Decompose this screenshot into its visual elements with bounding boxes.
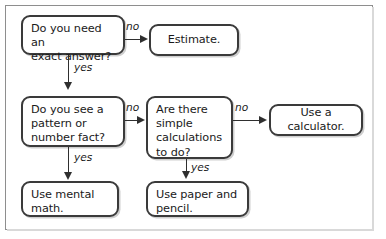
edge-pattern-fact-yes-arrowhead — [64, 172, 72, 180]
node-use-paper-and-pencil: Use paper and pencil. — [146, 181, 249, 217]
node-estimate: Estimate. — [149, 24, 239, 56]
node-use-mental-math: Use mental math. — [21, 181, 119, 217]
node-use-calculator: Use a calculator. — [269, 104, 363, 136]
node-question-pattern-fact: Do you see a pattern or number fact? — [21, 96, 125, 147]
edge-label-simple-calc-yes: yes — [191, 161, 209, 173]
node-question-simple-calculations-label: Are there simple calculations to do? — [156, 103, 224, 160]
edge-simple-calc-yes-arrowhead — [182, 171, 190, 179]
flowchart-screenshot: Do you need an exact answer? Estimate. D… — [0, 0, 386, 239]
node-estimate-label: Estimate. — [168, 33, 221, 47]
edge-exact-answer-yes-arrowhead — [64, 82, 72, 90]
edge-simple-calc-no-arrowhead — [259, 116, 267, 124]
edge-label-simple-calc-no: no — [235, 101, 248, 113]
node-question-exact-answer: Do you need an exact answer? — [21, 15, 125, 55]
edge-pattern-fact-no-arrowhead — [137, 116, 145, 124]
edge-exact-answer-no-arrowhead — [140, 35, 148, 43]
node-question-pattern-fact-label: Do you see a pattern or number fact? — [31, 103, 116, 146]
node-question-simple-calculations: Are there simple calculations to do? — [146, 96, 233, 159]
edge-label-exact-answer-no: no — [126, 20, 139, 32]
node-use-calculator-label: Use a calculator. — [277, 106, 355, 134]
edge-label-pattern-fact-yes: yes — [74, 151, 92, 163]
edge-label-pattern-fact-no: no — [126, 101, 139, 113]
edge-label-exact-answer-yes: yes — [74, 61, 92, 73]
edge-pattern-fact-yes-line — [68, 147, 69, 173]
figure-frame: Do you need an exact answer? Estimate. D… — [5, 5, 373, 230]
node-question-exact-answer-label: Do you need an exact answer? — [31, 22, 116, 65]
node-use-paper-and-pencil-label: Use paper and pencil. — [156, 188, 240, 216]
node-use-mental-math-label: Use mental math. — [31, 188, 110, 216]
edge-exact-answer-yes-line — [68, 55, 69, 83]
edge-simple-calc-no-line — [233, 120, 260, 121]
edge-exact-answer-no-line — [125, 39, 141, 40]
